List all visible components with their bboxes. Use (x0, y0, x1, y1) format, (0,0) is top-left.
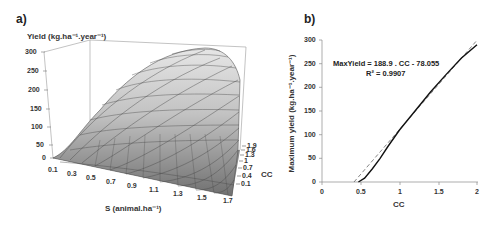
x-axis-title-b: CC (393, 200, 405, 209)
s-tick-1.5: 1.5 (197, 194, 207, 201)
yb-tick-100: 100 (304, 131, 316, 138)
s-axis-title: S (animal.ha⁻¹) (105, 204, 161, 213)
cc-tick-0.4: 0.4 (242, 172, 252, 179)
s-tick-0.1: 0.1 (48, 166, 58, 173)
z-tick-100: 100 (31, 123, 43, 130)
z-tick-150: 150 (30, 105, 42, 112)
xb-tick-1: 1 (398, 188, 402, 195)
yb-tick-200: 200 (304, 83, 316, 90)
yb-tick-50: 50 (308, 154, 316, 161)
regression-equation: MaxYield = 188.9 . CC - 78.055 (333, 59, 439, 68)
z-tick-50: 50 (36, 141, 44, 148)
xb-tick-0: 0 (320, 188, 324, 195)
s-tick-0.7: 0.7 (106, 178, 116, 185)
cc-tick-0.7: 0.7 (243, 164, 253, 171)
yb-tick-250: 250 (304, 60, 316, 67)
z-tick-200: 200 (28, 86, 40, 93)
cc-tick-1: 1 (244, 157, 248, 164)
z-tick-250: 250 (27, 67, 39, 74)
cc-tick-0.1: 0.1 (241, 180, 251, 187)
yb-tick-0: 0 (312, 178, 316, 185)
yb-tick-150: 150 (304, 107, 316, 114)
xb-tick-0.5: 0.5 (356, 188, 366, 195)
xb-tick-1.5: 1.5 (434, 188, 444, 195)
y-axis-title-b: Maximum yield (kg.ha⁻¹.year⁻¹) (287, 49, 296, 179)
cc-axis-title-a: CC (261, 170, 273, 179)
s-tick-1.1: 1.1 (149, 186, 159, 193)
yb-tick-300: 300 (304, 36, 316, 43)
s-tick-0.5: 0.5 (86, 174, 96, 181)
s-tick-0.9: 0.9 (127, 182, 137, 189)
r-squared: R² = 0.9907 (366, 69, 405, 78)
s-tick-1.3: 1.3 (173, 190, 183, 197)
s-tick-1.7: 1.7 (223, 197, 233, 204)
s-tick-0.3: 0.3 (67, 170, 77, 177)
xb-tick-2: 2 (475, 188, 479, 195)
surface-mesh (53, 48, 240, 196)
z-tick-0: 0 (42, 154, 46, 161)
z-tick-300: 300 (25, 48, 37, 55)
